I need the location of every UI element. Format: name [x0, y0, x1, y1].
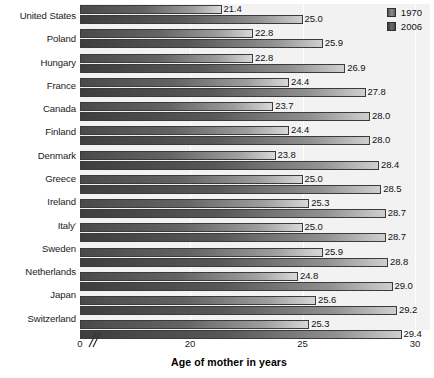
bar-group-2006: 28.7	[80, 233, 430, 242]
bar-1970[interactable]	[80, 54, 253, 63]
legend-label-2006: 2006	[401, 21, 422, 32]
bar-value-label: 25.9	[325, 36, 343, 50]
bar-value-label: 28.0	[372, 109, 390, 123]
bar-1970[interactable]	[80, 272, 298, 281]
bar-2006[interactable]	[80, 39, 323, 48]
legend-item-2006[interactable]: 2006	[387, 21, 422, 32]
category-label-france: France	[0, 74, 76, 97]
bar-2006[interactable]	[80, 136, 370, 145]
bar-group-1970: 25.3	[80, 320, 430, 329]
bar-1970[interactable]	[80, 151, 276, 160]
category-label-canada: Canada	[0, 97, 76, 120]
bar-1970[interactable]	[80, 29, 253, 38]
bar-2006[interactable]	[80, 15, 303, 24]
bar-group-2006: 28.0	[80, 136, 430, 145]
bar-group-1970: 25.0	[80, 223, 430, 232]
bar-row: 22.825.9	[80, 29, 430, 52]
bar-1970[interactable]	[80, 102, 273, 111]
bar-group-1970: 22.8	[80, 29, 430, 38]
axis-break-icon	[86, 332, 104, 350]
bar-group-2006: 25.9	[80, 39, 430, 48]
bar-row: 24.428.0	[80, 126, 430, 149]
bar-group-1970: 24.8	[80, 272, 430, 281]
bar-row: 25.028.7	[80, 223, 430, 246]
bar-2006[interactable]	[80, 306, 397, 315]
bar-row: 25.328.7	[80, 199, 430, 222]
bar-group-1970: 25.3	[80, 199, 430, 208]
bar-value-label: 29.2	[399, 303, 417, 317]
bar-1970[interactable]	[80, 126, 289, 135]
bar-group-2006: 29.2	[80, 306, 430, 315]
bar-value-label: 28.8	[390, 255, 408, 269]
bar-group-1970: 25.0	[80, 175, 430, 184]
bar-1970[interactable]	[80, 5, 222, 14]
legend-label-1970: 1970	[401, 7, 422, 18]
legend: 1970 2006	[387, 7, 422, 32]
bar-group-1970: 23.8	[80, 151, 430, 160]
bar-1970[interactable]	[80, 320, 309, 329]
bar-value-label: 28.7	[388, 230, 406, 244]
bar-value-label: 24.4	[291, 75, 309, 89]
bar-1970[interactable]	[80, 223, 303, 232]
bar-value-label: 24.8	[300, 269, 318, 283]
category-axis-labels: United StatesPolandHungaryFranceCanadaFi…	[0, 4, 76, 330]
bar-rows: 21.425.022.825.922.826.924.427.823.728.0…	[80, 4, 430, 330]
bar-1970[interactable]	[80, 175, 303, 184]
bar-2006[interactable]	[80, 233, 386, 242]
category-label-hungary: Hungary	[0, 51, 76, 74]
bar-row: 23.728.0	[80, 102, 430, 125]
bar-2006[interactable]	[80, 161, 379, 170]
category-label-switzerland: Switzerland	[0, 306, 76, 329]
bar-value-label: 25.0	[305, 12, 323, 26]
legend-swatch-1970-icon	[387, 8, 396, 17]
bar-value-label: 25.0	[305, 220, 323, 234]
bar-group-1970: 25.9	[80, 248, 430, 257]
bar-group-2006: 27.8	[80, 88, 430, 97]
bar-value-label: 28.5	[383, 182, 401, 196]
bar-value-label: 27.8	[368, 85, 386, 99]
bar-group-1970: 22.8	[80, 54, 430, 63]
bar-value-label: 24.4	[291, 123, 309, 137]
bar-group-2006: 28.4	[80, 161, 430, 170]
category-label-ireland: Ireland	[0, 190, 76, 213]
legend-item-1970[interactable]: 1970	[387, 7, 422, 18]
category-label-finland: Finland	[0, 120, 76, 143]
bar-value-label: 23.8	[278, 148, 296, 162]
bar-1970[interactable]	[80, 296, 316, 305]
bar-row: 24.427.8	[80, 78, 430, 101]
bar-value-label: 25.3	[311, 196, 329, 210]
category-label-poland: Poland	[0, 27, 76, 50]
bar-2006[interactable]	[80, 64, 345, 73]
bar-2006[interactable]	[80, 185, 381, 194]
bar-row: 23.828.4	[80, 151, 430, 174]
bar-value-label: 28.4	[381, 158, 399, 172]
x-tick-label-25: 25	[297, 338, 308, 349]
x-tick-label-0: 0	[77, 338, 82, 349]
bar-value-label: 28.7	[388, 206, 406, 220]
bar-row: 25.629.2	[80, 296, 430, 319]
bar-value-label: 22.8	[255, 51, 273, 65]
x-tick-label-30: 30	[410, 338, 421, 349]
bar-group-2006: 25.0	[80, 15, 430, 24]
category-label-greece: Greece	[0, 167, 76, 190]
bar-2006[interactable]	[80, 209, 386, 218]
bar-value-label: 25.9	[325, 245, 343, 259]
bar-1970[interactable]	[80, 199, 309, 208]
bar-1970[interactable]	[80, 248, 323, 257]
bar-value-label: 29.0	[395, 279, 413, 293]
x-axis-title: Age of mother in years	[0, 356, 434, 368]
category-label-italy: Italy'	[0, 213, 76, 236]
bar-group-1970: 21.4	[80, 5, 430, 14]
bar-group-2006: 28.0	[80, 112, 430, 121]
chart-container: 21.425.022.825.922.826.924.427.823.728.0…	[0, 0, 434, 378]
bar-2006[interactable]	[80, 112, 370, 121]
bar-value-label: 25.6	[318, 293, 336, 307]
bar-row: 24.829.0	[80, 272, 430, 295]
category-label-denmark: Denmark	[0, 144, 76, 167]
category-label-japan: Japan	[0, 283, 76, 306]
bar-value-label: 26.9	[347, 61, 365, 75]
bar-2006[interactable]	[80, 88, 366, 97]
bar-1970[interactable]	[80, 78, 289, 87]
bar-2006[interactable]	[80, 282, 393, 291]
bar-2006[interactable]	[80, 258, 388, 267]
